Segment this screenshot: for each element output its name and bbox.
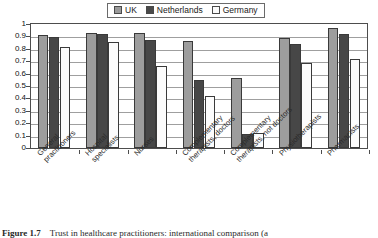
bar-uk xyxy=(328,28,339,148)
caption-text: Trust in healthcare practitioners: inter… xyxy=(50,228,268,238)
bar-uk xyxy=(134,33,145,148)
legend-label: Netherlands xyxy=(157,5,203,15)
bar-uk xyxy=(183,41,194,148)
chart-legend: UKNetherlandsGermany xyxy=(107,3,265,18)
legend-label: Germany xyxy=(223,5,258,15)
y-axis-tick-label: 0.5 xyxy=(15,82,26,90)
y-axis: 10.90.80.70.60.50.40.30.20.10 xyxy=(0,23,30,149)
bar-netherlands xyxy=(145,40,156,149)
legend-item-uk: UK xyxy=(114,5,137,15)
bar-groups xyxy=(31,24,367,148)
y-axis-tick-label: 0.3 xyxy=(15,107,26,115)
bar-group xyxy=(86,24,119,148)
y-axis-tick-label: 0.9 xyxy=(15,32,26,40)
bar-germany xyxy=(156,66,167,148)
y-axis-tick-label: 0.1 xyxy=(15,132,26,140)
y-axis-tick-label: 0.2 xyxy=(15,119,26,127)
legend-swatch-icon xyxy=(146,6,154,14)
y-axis-tick-label: 0.4 xyxy=(15,94,26,102)
x-axis-labels: General practitionersHospital specialist… xyxy=(0,150,378,216)
y-axis-tick-label: 0.8 xyxy=(15,45,26,53)
y-axis-tick-label: 0.6 xyxy=(15,70,26,78)
bar-uk xyxy=(231,78,242,148)
legend-item-netherlands: Netherlands xyxy=(146,5,203,15)
plot-area xyxy=(30,23,368,149)
legend-label: UK xyxy=(125,5,137,15)
caption-number: Figure 1.7 xyxy=(2,228,41,238)
y-axis-tick-label: 0.7 xyxy=(15,57,26,65)
figure: UKNetherlandsGermany 10.90.80.70.60.50.4… xyxy=(0,0,378,238)
bar-uk xyxy=(279,38,290,148)
figure-caption: Figure 1.7 Trust in healthcare practitio… xyxy=(2,228,378,238)
legend-swatch-icon xyxy=(212,6,220,14)
legend-swatch-icon xyxy=(114,6,122,14)
bar-group xyxy=(134,24,167,148)
bar-uk xyxy=(86,33,97,148)
bar-uk xyxy=(38,35,49,148)
legend-item-germany: Germany xyxy=(212,5,258,15)
